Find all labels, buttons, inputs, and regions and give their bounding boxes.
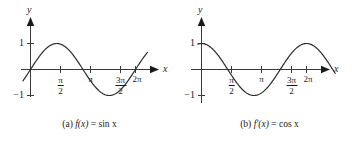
plot-panel-cos: y x 1 −1 π 2 π 3π 2 2π (b) f′(x) xyxy=(180,0,359,147)
fraction-numerator: π xyxy=(228,75,235,86)
fraction-numerator: 3π xyxy=(286,75,297,86)
caption-label: (a) xyxy=(62,119,73,129)
y-tick-label-negative-one: −1 xyxy=(0,90,24,100)
caption-label: (b) xyxy=(240,119,251,129)
x-axis-arrow-icon xyxy=(150,66,159,73)
fraction-denominator: 2 xyxy=(228,86,235,96)
y-tick-label-negative-one: −1 xyxy=(170,90,195,100)
x-tick-label-2pi: 2π xyxy=(303,75,312,84)
fraction-3pi-over-2: 3π 2 xyxy=(286,75,297,96)
caption-expression: sin x xyxy=(99,119,117,129)
plot-panel-sin: y x 1 −1 π 2 π 3π 2 2π (a) f(x) xyxy=(0,0,179,147)
y-axis-label: y xyxy=(27,5,31,15)
fraction-denominator: 2 xyxy=(115,86,126,96)
tick-text-pi: π xyxy=(88,75,93,84)
figure-sin-cos-derivative: y x 1 −1 π 2 π 3π 2 2π (a) f(x) xyxy=(0,0,359,147)
caption-equals: = xyxy=(271,119,276,129)
sin-plot-graphic xyxy=(0,0,179,118)
x-tick-label-pi-over-2: π 2 xyxy=(228,75,235,96)
panel-caption-cos: (b) f′(x) = cos x xyxy=(180,118,359,130)
caption-expression: cos x xyxy=(279,119,299,129)
tick-text-pi: π xyxy=(259,75,264,84)
fraction-numerator: 3π xyxy=(115,75,126,86)
y-axis-label: y xyxy=(198,5,202,15)
y-tick-label-one: 1 xyxy=(179,38,195,48)
x-tick-label-3pi-over-2: 3π 2 xyxy=(115,75,126,96)
x-tick-label-pi: π xyxy=(88,75,93,84)
x-axis-arrow-icon xyxy=(321,66,330,73)
x-tick-label-3pi-over-2: 3π 2 xyxy=(286,75,297,96)
x-axis-label: x xyxy=(334,64,338,74)
tick-text-2pi: 2π xyxy=(132,75,141,84)
tick-text-2pi: 2π xyxy=(303,75,312,84)
fraction-numerator: π xyxy=(57,75,64,86)
y-axis-arrow-icon xyxy=(198,17,205,26)
fraction-denominator: 2 xyxy=(57,86,64,96)
x-tick-label-2pi: 2π xyxy=(132,75,141,84)
x-axis-label: x xyxy=(163,64,167,74)
x-tick-label-pi: π xyxy=(259,75,264,84)
y-axis-arrow-icon xyxy=(27,17,34,26)
y-tick-label-one: 1 xyxy=(6,38,24,48)
caption-function: f′(x) xyxy=(254,119,269,129)
panel-caption-sin: (a) f(x) = sin x xyxy=(0,118,179,130)
fraction-3pi-over-2: 3π 2 xyxy=(115,75,126,96)
fraction-pi-over-2: π 2 xyxy=(57,75,64,96)
cos-plot-graphic xyxy=(180,0,359,118)
fraction-denominator: 2 xyxy=(286,86,297,96)
caption-function: f(x) xyxy=(75,119,88,129)
fraction-pi-over-2: π 2 xyxy=(228,75,235,96)
x-tick-label-pi-over-2: π 2 xyxy=(57,75,64,96)
caption-equals: = xyxy=(91,119,96,129)
